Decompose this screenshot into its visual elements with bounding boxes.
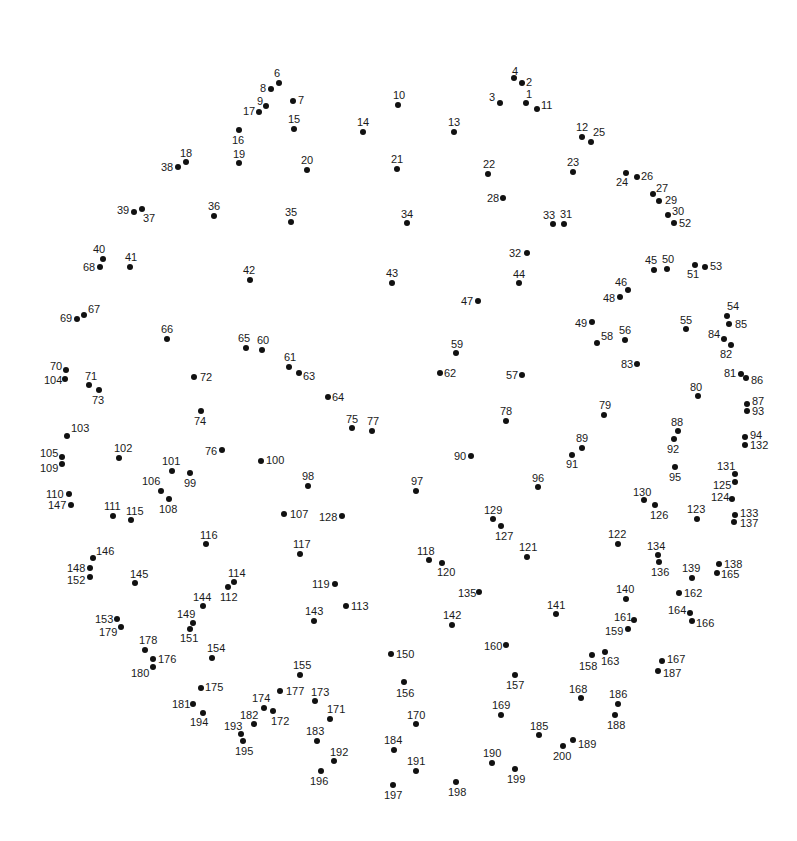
dot-157 bbox=[512, 672, 518, 678]
dot-35 bbox=[288, 219, 294, 225]
dot-166 bbox=[689, 618, 695, 624]
dot-label-180: 180 bbox=[131, 668, 149, 679]
dot-12 bbox=[579, 134, 585, 140]
dot-label-20: 20 bbox=[301, 155, 313, 166]
dot-label-71: 71 bbox=[85, 371, 97, 382]
dot-label-191: 191 bbox=[407, 756, 425, 767]
dot-label-130: 130 bbox=[633, 487, 651, 498]
dot-label-30: 30 bbox=[672, 206, 684, 217]
dot-label-196: 196 bbox=[310, 776, 328, 787]
dot-to-dot-canvas: 1234678910111213141516171819202122232425… bbox=[0, 0, 797, 841]
dot-106 bbox=[158, 488, 164, 494]
dot-label-115: 115 bbox=[126, 506, 144, 517]
dot-137 bbox=[731, 519, 737, 525]
dot-72 bbox=[191, 374, 197, 380]
dot-175 bbox=[198, 685, 204, 691]
dot-87 bbox=[744, 401, 750, 407]
dot-label-192: 192 bbox=[330, 747, 348, 758]
dot-66 bbox=[164, 336, 170, 342]
dot-label-141: 141 bbox=[547, 600, 565, 611]
dot-label-61: 61 bbox=[284, 352, 296, 363]
dot-label-93: 93 bbox=[752, 406, 764, 417]
dot-label-125: 125 bbox=[713, 480, 731, 491]
dot-150 bbox=[388, 651, 394, 657]
dot-22 bbox=[485, 171, 491, 177]
dot-label-112: 112 bbox=[220, 592, 238, 603]
dot-label-99: 99 bbox=[184, 478, 196, 489]
dot-label-75: 75 bbox=[346, 414, 358, 425]
dot-200 bbox=[560, 743, 566, 749]
dot-label-199: 199 bbox=[507, 774, 525, 785]
dot-53 bbox=[702, 264, 708, 270]
dot-label-145: 145 bbox=[130, 569, 148, 580]
dot-107 bbox=[281, 511, 287, 517]
dot-77 bbox=[369, 428, 375, 434]
dot-label-142: 142 bbox=[443, 610, 461, 621]
dot-162 bbox=[676, 590, 682, 596]
dot-114 bbox=[231, 579, 237, 585]
dot-18 bbox=[183, 159, 189, 165]
dot-label-96: 96 bbox=[532, 473, 544, 484]
dot-124 bbox=[729, 496, 735, 502]
dot-label-147: 147 bbox=[48, 500, 66, 511]
dot-45 bbox=[651, 267, 657, 273]
dot-label-27: 27 bbox=[656, 183, 668, 194]
dot-43 bbox=[389, 280, 395, 286]
dot-label-45: 45 bbox=[645, 255, 657, 266]
dot-label-31: 31 bbox=[560, 209, 572, 220]
dot-20 bbox=[304, 167, 310, 173]
dot-label-3: 3 bbox=[489, 92, 495, 103]
dot-label-111: 111 bbox=[104, 501, 121, 512]
dot-label-185: 185 bbox=[530, 721, 548, 732]
dot-196 bbox=[318, 768, 324, 774]
dot-99 bbox=[187, 470, 193, 476]
dot-47 bbox=[475, 298, 481, 304]
dot-156 bbox=[401, 679, 407, 685]
dot-133 bbox=[732, 512, 738, 518]
dot-9 bbox=[263, 103, 269, 109]
dot-label-117: 117 bbox=[293, 539, 311, 550]
dot-118 bbox=[426, 557, 432, 563]
dot-13 bbox=[451, 129, 457, 135]
dot-label-121: 121 bbox=[519, 542, 537, 553]
dot-label-47: 47 bbox=[461, 296, 473, 307]
dot-label-126: 126 bbox=[650, 510, 668, 521]
dot-label-1: 1 bbox=[526, 89, 532, 100]
dot-label-149: 149 bbox=[177, 609, 195, 620]
dot-31 bbox=[561, 221, 567, 227]
dot-11 bbox=[534, 106, 540, 112]
dot-86 bbox=[743, 375, 749, 381]
dot-label-77: 77 bbox=[367, 416, 379, 427]
dot-label-198: 198 bbox=[448, 787, 466, 798]
dot-144 bbox=[200, 603, 206, 609]
dot-181 bbox=[190, 701, 196, 707]
dot-label-187: 187 bbox=[663, 668, 681, 679]
dot-154 bbox=[209, 655, 215, 661]
dot-25 bbox=[588, 139, 594, 145]
dot-label-13: 13 bbox=[448, 117, 460, 128]
dot-label-122: 122 bbox=[608, 529, 626, 540]
dot-83 bbox=[634, 361, 640, 367]
dot-label-134: 134 bbox=[647, 541, 665, 552]
dot-97 bbox=[413, 488, 419, 494]
dot-93 bbox=[744, 408, 750, 414]
dot-label-10: 10 bbox=[393, 90, 405, 101]
dot-label-39: 39 bbox=[117, 205, 129, 216]
dot-label-11: 11 bbox=[541, 100, 552, 111]
dot-label-116: 116 bbox=[200, 530, 218, 541]
dot-label-157: 157 bbox=[506, 680, 524, 691]
dot-label-4: 4 bbox=[512, 66, 518, 77]
dot-label-97: 97 bbox=[411, 476, 423, 487]
dot-63 bbox=[296, 370, 302, 376]
dot-label-22: 22 bbox=[483, 159, 495, 170]
dot-label-159: 159 bbox=[605, 626, 623, 637]
dot-label-26: 26 bbox=[641, 171, 653, 182]
dot-label-184: 184 bbox=[384, 735, 402, 746]
dot-label-137: 137 bbox=[740, 518, 758, 529]
dot-112 bbox=[225, 584, 231, 590]
dot-label-14: 14 bbox=[357, 117, 369, 128]
dot-label-83: 83 bbox=[621, 359, 633, 370]
dot-84 bbox=[721, 336, 727, 342]
dot-71 bbox=[86, 382, 92, 388]
dot-14 bbox=[360, 129, 366, 135]
